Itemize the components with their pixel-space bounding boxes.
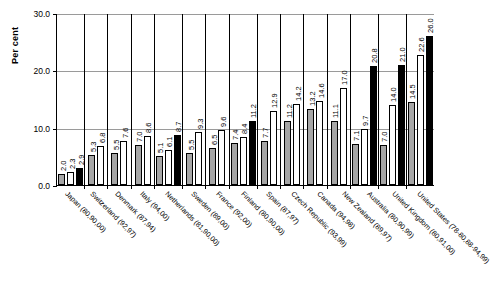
bar-value-label: 6.5 <box>210 134 217 144</box>
bar[interactable]: 6.5 <box>209 148 216 185</box>
bar[interactable]: 14.2 <box>293 104 300 185</box>
bar[interactable]: 22.6 <box>417 55 424 185</box>
bar[interactable]: 6.8 <box>97 146 104 185</box>
bar-value-label: 5.3 <box>89 141 96 151</box>
x-axis-category: Sweden (89,00) <box>182 188 207 306</box>
x-axis-category: Netherlands (81,90,00) <box>157 188 182 306</box>
bar-value-label: 2.9 <box>77 155 84 165</box>
bar-group: 7.08.6 <box>132 14 155 185</box>
bar-group: 7.014.021.0 <box>379 14 407 185</box>
bar-group: 11.117.0 <box>328 14 351 185</box>
bar-value-label: 12.9 <box>271 93 278 108</box>
plot-area: 2.02.32.95.36.85.57.67.08.65.16.18.75.59… <box>56 14 434 186</box>
bar-value-label: 5.1 <box>157 142 164 152</box>
x-axis-category: Finland (80,90,00) <box>232 188 257 306</box>
bar-value-label: 5.5 <box>187 140 194 150</box>
bar[interactable]: 2.9 <box>76 168 83 185</box>
bar-value-label: 14.2 <box>294 86 301 101</box>
bar-value-label: 2.0 <box>59 160 66 170</box>
bar-value-label: 9.6 <box>219 117 226 127</box>
y-axis-title: Per cent <box>10 27 20 64</box>
bar[interactable]: 9.3 <box>195 132 202 185</box>
bar[interactable]: 8.7 <box>174 135 181 185</box>
bar-value-label: 7.1 <box>353 131 360 141</box>
bar-group: 5.16.18.7 <box>155 14 183 185</box>
bar-group: 2.02.32.9 <box>57 14 85 185</box>
bar-value-label: 8.7 <box>175 122 182 132</box>
bar-group: 7.712.9 <box>258 14 281 185</box>
x-axis-category: United Kingdom (80,91,00) <box>384 188 409 306</box>
bar-value-label: 11.1 <box>332 104 339 118</box>
bar[interactable]: 8.6 <box>144 136 151 185</box>
x-axis-category: Switzerland (92,97) <box>81 188 106 306</box>
bar-group: 13.214.6 <box>304 14 327 185</box>
bar-value-label: 7.0 <box>381 131 388 141</box>
bar-value-label: 22.6 <box>418 38 425 53</box>
y-axis-tick-label: 20.0 <box>4 67 50 75</box>
x-axis-category: United States (78-80,88-94,99) <box>409 188 434 306</box>
bar-value-label: 8.6 <box>145 122 152 132</box>
bar[interactable]: 5.3 <box>88 155 95 185</box>
bar-value-label: 2.3 <box>68 158 75 168</box>
bar[interactable]: 5.1 <box>156 156 163 185</box>
bar[interactable]: 7.0 <box>380 145 387 185</box>
bar[interactable]: 14.0 <box>389 105 396 185</box>
bar-value-label: 7.6 <box>121 128 128 138</box>
bar-value-label: 13.2 <box>308 92 315 107</box>
x-axis-category: Czech Republic (93,99) <box>283 188 308 306</box>
bar-groups: 2.02.32.95.36.85.57.67.08.65.16.18.75.59… <box>57 14 434 185</box>
x-axis-category: Spain (87,97) <box>258 188 283 306</box>
x-axis-category-label: United States (78-80,88-94,99) <box>416 190 491 265</box>
bar-value-label: 14.5 <box>409 84 416 99</box>
bar[interactable]: 11.2 <box>284 121 291 185</box>
bar-value-label: 9.3 <box>196 118 203 128</box>
x-axis-category: Australia (80,90,99) <box>358 188 383 306</box>
bar[interactable]: 14.6 <box>316 101 323 185</box>
bar[interactable]: 7.6 <box>120 141 127 185</box>
bar[interactable]: 7.1 <box>352 144 359 185</box>
bar-value-label: 9.7 <box>362 116 369 126</box>
bar-value-label: 14.0 <box>390 87 397 102</box>
bar-value-label: 7.4 <box>232 129 239 139</box>
bar[interactable]: 7.4 <box>231 143 238 185</box>
bar-value-label: 8.4 <box>241 123 248 133</box>
bar-value-label: 20.8 <box>371 48 378 63</box>
y-axis-tick-label: 30.0 <box>4 10 50 18</box>
bar-group: 14.522.626.0 <box>407 14 434 185</box>
bar[interactable]: 2.3 <box>67 172 74 185</box>
bar[interactable]: 13.2 <box>307 109 314 185</box>
bar-group: 7.48.411.2 <box>230 14 258 185</box>
bar[interactable]: 2.0 <box>58 174 65 185</box>
bar[interactable]: 7.0 <box>135 145 142 185</box>
bar[interactable]: 26.0 <box>426 36 433 185</box>
bar-value-label: 11.2 <box>250 104 257 118</box>
bar[interactable]: 20.8 <box>370 66 377 185</box>
bar[interactable]: 14.5 <box>408 102 415 185</box>
bar-value-label: 26.0 <box>427 18 434 33</box>
x-axis-category: Canada (94,98) <box>308 188 333 306</box>
bar[interactable]: 9.7 <box>361 129 368 185</box>
x-axis-category: Japan (80,90,00) <box>56 188 81 306</box>
bar[interactable]: 5.5 <box>111 153 118 185</box>
bar[interactable]: 21.0 <box>398 65 405 185</box>
bar[interactable]: 17.0 <box>340 88 347 185</box>
bar[interactable]: 11.2 <box>249 121 256 185</box>
bar-value-label: 14.6 <box>317 84 324 99</box>
bar[interactable]: 6.1 <box>165 150 172 185</box>
bar[interactable]: 5.5 <box>186 153 193 185</box>
bar[interactable]: 11.1 <box>331 121 338 185</box>
bar-group: 7.19.720.8 <box>351 14 379 185</box>
bar[interactable]: 8.4 <box>240 137 247 185</box>
bar[interactable]: 7.7 <box>261 141 268 185</box>
bar-group: 5.57.6 <box>108 14 131 185</box>
bar-value-label: 6.1 <box>166 137 173 147</box>
bar-group: 11.214.2 <box>281 14 304 185</box>
bar[interactable]: 12.9 <box>270 111 277 185</box>
bar-group: 6.59.6 <box>206 14 229 185</box>
bar[interactable]: 9.6 <box>218 130 225 185</box>
bar-value-label: 11.2 <box>285 104 292 118</box>
x-axis-category: France (92,00) <box>207 188 232 306</box>
bar-group: 5.36.8 <box>85 14 108 185</box>
x-axis-category: Italy (94,00) <box>132 188 157 306</box>
